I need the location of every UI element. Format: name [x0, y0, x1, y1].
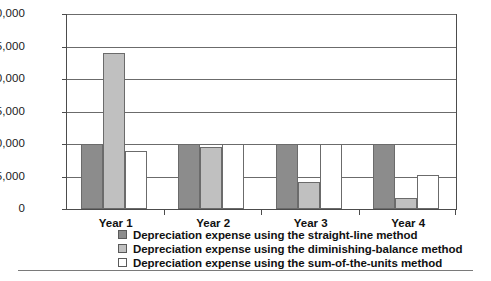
bar [200, 147, 222, 209]
x-tick-mark [164, 210, 165, 215]
legend-swatch-icon [118, 258, 127, 267]
y-tick-label: 5,000 [0, 170, 25, 182]
legend-label: Depreciation expense using the straight-… [133, 229, 417, 241]
bar [395, 198, 417, 209]
y-tick-label: 0 [19, 202, 26, 214]
chart-figure: 05,00010,00015,00020,00025,00030,000 Yea… [0, 0, 491, 281]
gridline [66, 47, 456, 48]
bar [417, 175, 439, 209]
chart-legend: Depreciation expense using the straight-… [118, 228, 462, 270]
y-tick-mark [62, 209, 67, 210]
y-tick-label: 10,000 [0, 137, 25, 149]
bar [276, 144, 298, 209]
y-tick-mark [62, 47, 67, 48]
bar [222, 144, 244, 209]
bar [178, 144, 200, 209]
bar [81, 144, 103, 209]
legend-label: Depreciation expense using the diminishi… [133, 243, 462, 255]
figure-frame-bottom-border [18, 270, 473, 271]
bar [373, 144, 395, 209]
y-tick-mark [62, 144, 67, 145]
bar [298, 182, 320, 209]
legend-item[interactable]: Depreciation expense using the straight-… [118, 228, 462, 241]
y-tick-label: 30,000 [0, 7, 25, 19]
gridline [66, 14, 456, 15]
legend-item[interactable]: Depreciation expense using the diminishi… [118, 242, 462, 255]
y-tick-mark [62, 14, 67, 15]
plot-area: 05,00010,00015,00020,00025,00030,000 Yea… [66, 14, 456, 210]
bar [103, 53, 125, 209]
y-tick-label: 20,000 [0, 72, 25, 84]
legend-swatch-icon [118, 230, 127, 239]
legend-item[interactable]: Depreciation expense using the sum-of-th… [118, 256, 462, 269]
y-tick-mark [62, 112, 67, 113]
legend-label: Depreciation expense using the sum-of-th… [133, 257, 442, 269]
y-tick-mark [62, 177, 67, 178]
y-tick-label: 15,000 [0, 105, 25, 117]
x-tick-mark [455, 210, 456, 215]
y-tick-label: 25,000 [0, 40, 25, 52]
bar [125, 151, 147, 210]
x-tick-mark [359, 210, 360, 215]
y-tick-mark [62, 79, 67, 80]
x-tick-mark [261, 210, 262, 215]
bar [320, 144, 342, 209]
legend-swatch-icon [118, 244, 127, 253]
figure-frame-right-border [456, 14, 457, 210]
